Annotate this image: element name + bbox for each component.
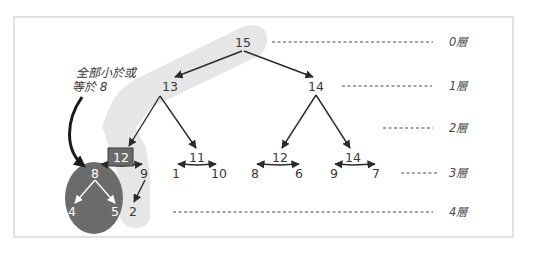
annotation-line2: 等於 8	[72, 80, 108, 94]
node-l4-b: 5	[111, 204, 119, 219]
node-l4-c: 2	[129, 204, 137, 219]
node-l3-c: 1	[172, 166, 180, 181]
node-l3-h: 7	[372, 166, 380, 181]
node-l2-d: 14	[345, 150, 361, 165]
node-l2-b: 11	[189, 150, 205, 165]
node-l2-c: 12	[272, 150, 288, 165]
level-0-label: 0層	[449, 35, 469, 49]
node-l3-g: 9	[330, 166, 338, 181]
level-3-label: 3層	[449, 166, 469, 180]
node-l4-a: 4	[68, 204, 76, 219]
level-2-label: 2層	[449, 121, 469, 135]
node-l1-left: 13	[162, 79, 178, 94]
node-l1-right: 14	[308, 79, 324, 94]
node-l3-e: 8	[251, 166, 259, 181]
heap-diagram: 15 13 14 12 11 12 14 8 9 1 10 8 6 9 7 4 …	[0, 0, 534, 254]
annotation-line1: 全部小於或	[76, 66, 138, 80]
level-1-label: 1層	[449, 79, 469, 93]
node-l2-a: 12	[113, 150, 129, 165]
node-l3-d: 10	[211, 166, 227, 181]
node-l3-f: 6	[295, 166, 303, 181]
node-root: 15	[235, 35, 251, 50]
node-l3-a: 8	[91, 166, 99, 181]
node-l3-b: 9	[140, 166, 148, 181]
level-4-label: 4層	[449, 205, 469, 219]
